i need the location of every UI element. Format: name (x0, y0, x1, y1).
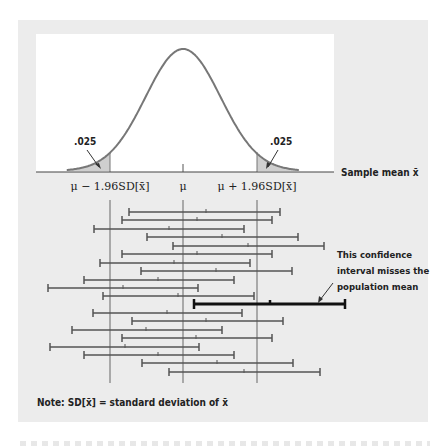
left-tail-shading (67, 153, 110, 171)
upper-critical-label: μ + 1.96SD[x̄] (218, 180, 297, 193)
interval (147, 233, 298, 241)
annotation-line-1: This confidence (337, 249, 412, 260)
interval (142, 359, 293, 367)
interval (50, 343, 199, 351)
mu-label: μ (179, 180, 186, 193)
interval (48, 284, 198, 292)
normal-curve (67, 49, 299, 170)
interval (93, 309, 242, 317)
annotation-arrow (320, 283, 333, 300)
interval (122, 250, 272, 258)
lower-critical-label: μ − 1.96SD[x̄] (71, 180, 150, 193)
interval-missing-mean (194, 299, 345, 309)
interval (94, 225, 244, 233)
interval (173, 242, 324, 250)
right-tail-label: .025 (270, 136, 292, 147)
annotation-line-2: interval misses the (337, 265, 429, 276)
interval (103, 292, 254, 300)
interval (122, 216, 272, 224)
interval (100, 259, 250, 267)
confidence-intervals (48, 208, 345, 376)
interval (141, 267, 292, 275)
interval (84, 276, 234, 284)
interval (84, 351, 234, 359)
left-tail-label: .025 (74, 136, 96, 147)
confidence-interval-figure: .025 .025 Sample mean x̄ μ − 1.96SD[x̄] … (0, 0, 447, 446)
interval (169, 368, 320, 376)
cropped-caption-text (20, 441, 430, 446)
x-axis-label: Sample mean x̄ (341, 167, 419, 178)
footnote: Note: SD[x̄] = standard deviation of x̄ (37, 397, 228, 408)
interval (132, 317, 283, 325)
interval (122, 334, 272, 342)
annotation-line-3: population mean (337, 281, 418, 292)
interval (72, 326, 222, 334)
